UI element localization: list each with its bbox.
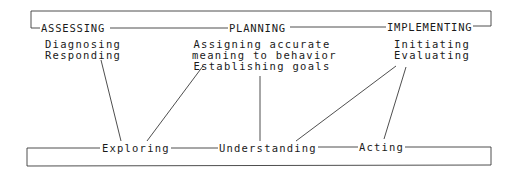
phase-implementing: IMPLEMENTING — [386, 21, 473, 33]
activities-implementing: Initiating Evaluating — [392, 39, 472, 61]
activities-assessing: Diagnosing Responding — [45, 39, 121, 61]
step-acting: Acting — [358, 141, 405, 153]
step-exploring: Exploring — [101, 142, 171, 154]
step-understanding: Understanding — [218, 142, 318, 154]
helping-process-diagram: ASSESSING PLANNING IMPLEMENTING Diagnosi… — [0, 0, 518, 176]
phase-assessing: ASSESSING — [40, 22, 106, 34]
activity-evaluating: Evaluating — [392, 50, 472, 61]
line-evaluating-acting — [384, 67, 406, 139]
line-responding-exploring — [101, 60, 121, 141]
activities-planning: Assigning accurate meaning to behavior E… — [192, 39, 332, 72]
line-establishing-exploring — [147, 66, 203, 141]
activity-establishing-goals: Establishing goals — [192, 61, 332, 72]
phase-planning: PLANNING — [228, 22, 287, 34]
line-evaluating-understanding — [296, 66, 396, 141]
activity-responding: Responding — [45, 50, 121, 61]
